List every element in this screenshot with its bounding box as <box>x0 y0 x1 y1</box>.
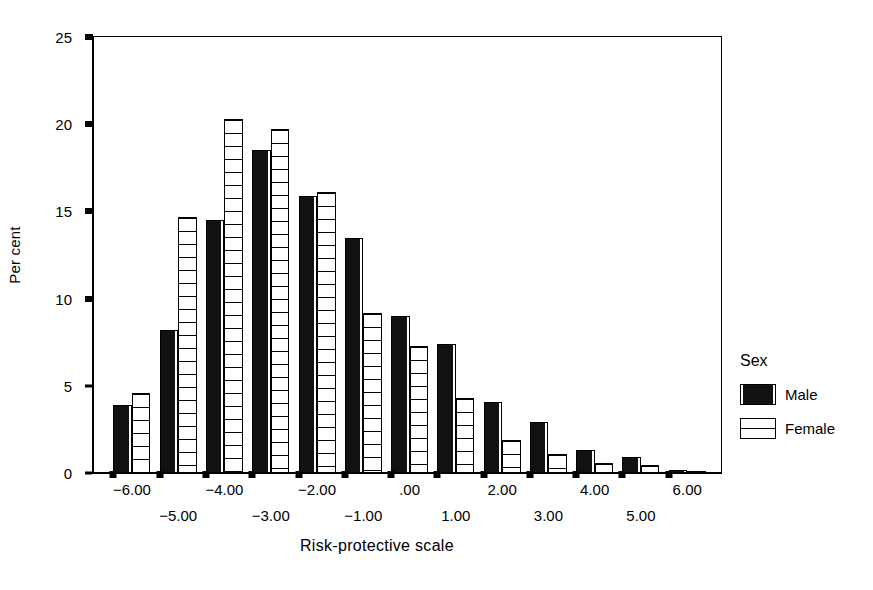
x-tick-label: 6.00 <box>673 481 702 498</box>
y-tick-mark <box>85 121 93 127</box>
x-tick-label: 2.00 <box>488 481 517 498</box>
legend-swatch-male-icon <box>740 384 776 405</box>
legend-label-male: Male <box>785 386 818 403</box>
x-tick-label: −4.00 <box>206 481 244 498</box>
legend-item-male: Male <box>740 384 865 405</box>
legend-title: Sex <box>740 352 865 370</box>
x-tick-label: −5.00 <box>159 507 197 524</box>
legend-item-female: Female <box>740 418 865 439</box>
x-tick-label: 5.00 <box>626 507 655 524</box>
x-tick-label: 3.00 <box>534 507 563 524</box>
x-axis-tick-labels: −6.00−5.00−4.00−3.00−2.00−1.00.001.002.0… <box>0 0 873 590</box>
legend-label-female: Female <box>785 420 835 437</box>
y-tick-mark <box>85 384 92 387</box>
x-tick-label: 4.00 <box>580 481 609 498</box>
y-tick-mark <box>85 208 93 214</box>
y-tick-mark <box>85 296 93 302</box>
legend-swatch-female-icon <box>740 418 776 439</box>
legend: Sex Male Female <box>740 352 865 452</box>
x-tick-label: −3.00 <box>252 507 290 524</box>
x-tick-label: −6.00 <box>113 481 151 498</box>
bar-chart: Per cent 0510152025 −6.00−5.00−4.00−3.00… <box>0 0 873 590</box>
x-tick-label: −1.00 <box>344 507 382 524</box>
y-tick-mark <box>85 472 92 475</box>
x-axis-title: Risk-protective scale <box>300 537 454 555</box>
x-tick-label: −2.00 <box>298 481 336 498</box>
y-tick-mark <box>85 34 93 40</box>
x-tick-label: .00 <box>399 481 420 498</box>
x-tick-label: 1.00 <box>441 507 470 524</box>
